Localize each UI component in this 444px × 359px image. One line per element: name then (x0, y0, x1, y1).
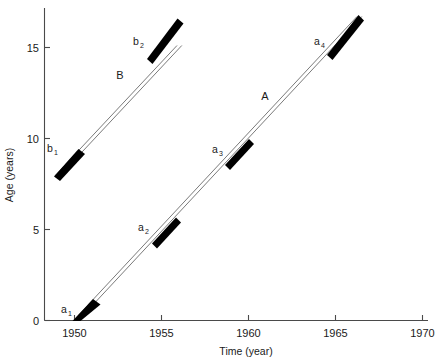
point-label-b2-sub: 2 (140, 42, 144, 49)
y-tick-label-15: 15 (27, 42, 39, 54)
cohort-line-b (54, 19, 184, 182)
point-label-b1-sub: 1 (54, 149, 58, 156)
point-label-a3-sub: 3 (219, 150, 223, 157)
series-label-b: B (116, 69, 123, 81)
cohort-diagram-svg: 0 5 10 15 Age (years) 1950 1955 1960 196… (0, 0, 444, 359)
x-tick-label-1960: 1960 (236, 327, 260, 339)
cohort-a-rail-upper (74, 17, 357, 321)
y-tick-label-0: 0 (33, 315, 39, 327)
point-label-b1: b 1 (47, 142, 58, 156)
point-label-a3-base: a (212, 143, 218, 155)
cohort-line-a (73, 15, 365, 321)
series-label-a: A (261, 90, 269, 102)
y-tick-label-10: 10 (27, 133, 39, 145)
cohort-a-block-a1 (73, 299, 101, 321)
point-label-a3: a 3 (212, 143, 223, 157)
x-tick-label-1950: 1950 (62, 327, 86, 339)
x-tick-label-1955: 1955 (149, 327, 173, 339)
y-axis-ticks: 0 5 10 15 (27, 42, 50, 327)
cohort-a-block-a2 (152, 218, 181, 249)
point-label-b2-base: b (133, 35, 139, 47)
point-label-a2-sub: 2 (145, 228, 149, 235)
point-label-a4-base: a (314, 35, 320, 47)
cohort-a-block-a3 (225, 139, 254, 170)
x-axis-title: Time (year) (219, 345, 272, 357)
cohort-a-rail-lower (79, 17, 362, 321)
cohort-b-block-b2 (147, 19, 184, 65)
point-label-a4-sub: 4 (321, 42, 325, 49)
x-tick-label-1970: 1970 (410, 327, 434, 339)
point-label-a1-sub: 1 (68, 310, 72, 317)
point-label-b1-base: b (47, 142, 53, 154)
point-label-a1: a 1 (61, 303, 72, 317)
x-tick-label-1965: 1965 (323, 327, 347, 339)
point-label-a1-base: a (61, 303, 67, 315)
x-axis-ticks: 1950 1955 1960 1965 1970 (62, 315, 434, 339)
point-label-a2-base: a (138, 221, 144, 233)
point-label-a2: a 2 (138, 221, 149, 235)
point-label-b2: b 2 (133, 35, 144, 49)
y-tick-label-5: 5 (33, 224, 39, 236)
y-axis-title: Age (years) (3, 148, 15, 202)
cohort-a-block-a4 (327, 15, 364, 60)
point-label-a4: a 4 (314, 35, 325, 49)
cohort-b-block-b1 (54, 149, 85, 181)
chart-figure: 0 5 10 15 Age (years) 1950 1955 1960 196… (0, 0, 444, 359)
axes-group (45, 8, 429, 321)
